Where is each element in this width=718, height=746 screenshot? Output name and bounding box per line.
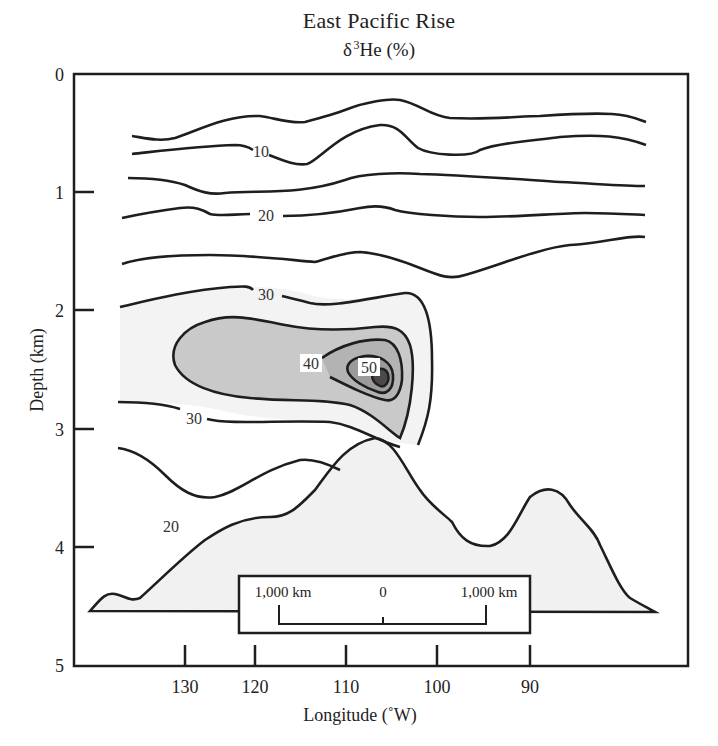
- contour-line: [122, 236, 645, 277]
- y-tick-5: 5: [55, 656, 64, 676]
- contour-plot: 0 1 2 3 4 5 130 120 110 100 90 Longitude…: [0, 0, 718, 746]
- y-tick-1: 1: [55, 183, 64, 203]
- contour-label-20-lower: 20: [163, 518, 179, 535]
- y-tick-0: 0: [55, 65, 64, 85]
- x-axis-title: Longitude (˚W): [303, 705, 416, 726]
- x-tick-110: 110: [333, 677, 359, 697]
- x-tick-120: 120: [242, 677, 269, 697]
- x-ticks: [185, 645, 530, 666]
- y-tick-4: 4: [55, 538, 64, 558]
- y-ticks: [74, 192, 94, 547]
- contour-label-10: 10: [253, 143, 269, 160]
- contour-line: [132, 99, 646, 139]
- scale-center-label: 0: [379, 584, 387, 600]
- x-tick-90: 90: [521, 677, 539, 697]
- contour-label-30-lower: 30: [186, 410, 202, 427]
- contour-line-20: [122, 206, 645, 218]
- scale-right-label: 1,000 km: [461, 584, 518, 600]
- contour-label-30-upper: 30: [258, 286, 274, 303]
- contour-label-50: 50: [361, 359, 377, 376]
- y-tick-3: 3: [55, 420, 64, 440]
- y-axis-title: Depth (km): [27, 328, 48, 411]
- contour-line: [128, 173, 645, 193]
- contour-line: [118, 448, 340, 498]
- x-tick-130: 130: [172, 677, 199, 697]
- y-tick-2: 2: [55, 301, 64, 321]
- scale-bar: 1,000 km 0 1,000 km: [239, 576, 530, 633]
- x-tick-100: 100: [424, 677, 451, 697]
- scale-left-label: 1,000 km: [255, 584, 312, 600]
- contour-line-10: [132, 125, 646, 164]
- contour-label-20-upper: 20: [258, 207, 274, 224]
- contour-label-40: 40: [303, 355, 319, 372]
